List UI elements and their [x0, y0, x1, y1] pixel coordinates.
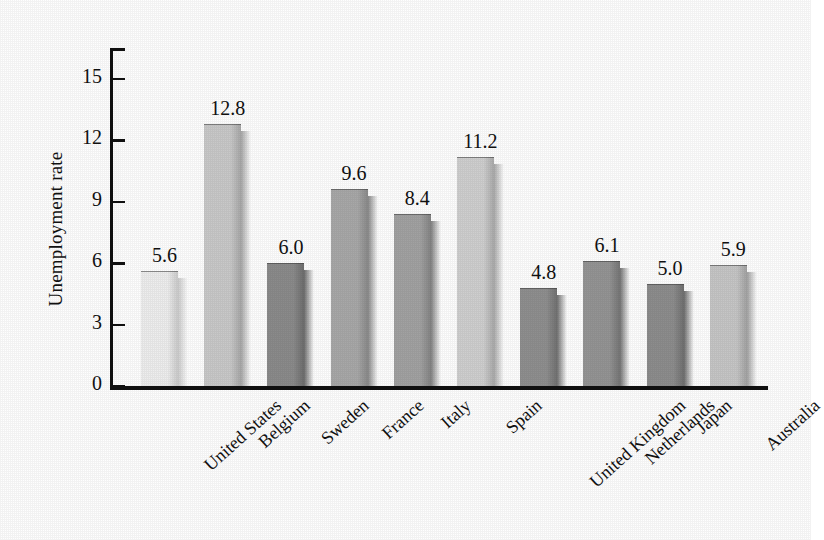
bar[interactable]: 8.4 — [394, 48, 441, 386]
y-axis-tick-label: 9 — [62, 189, 102, 209]
bar-front-face — [710, 265, 747, 386]
bar-value-label: 5.6 — [132, 245, 197, 266]
y-axis-tick-label: 12 — [62, 127, 102, 147]
bar-value-label: 11.2 — [448, 131, 513, 152]
bar-front-face — [520, 288, 557, 386]
bar[interactable]: 9.6 — [331, 48, 378, 386]
bar-side-face — [747, 272, 757, 386]
bar-value-label: 6.0 — [258, 237, 323, 258]
bar-front-face — [204, 124, 241, 386]
bar-side-face — [684, 291, 694, 386]
x-axis-tick-label: Spain — [503, 396, 546, 438]
y-axis-tick-label: 0 — [62, 373, 102, 393]
bar-value-label: 9.6 — [322, 163, 387, 184]
x-axis-tick-label: Italy — [437, 396, 474, 432]
x-axis-tick-label: France — [378, 396, 427, 443]
bar[interactable]: 6.0 — [267, 48, 314, 386]
bar[interactable]: 5.0 — [647, 48, 694, 386]
bar-front-face — [267, 263, 304, 386]
bar[interactable]: 5.9 — [710, 48, 757, 386]
y-axis-tick-label: 6 — [62, 250, 102, 270]
bar-side-face — [431, 221, 441, 386]
bar-value-label: 8.4 — [385, 188, 450, 209]
bar[interactable]: 4.8 — [520, 48, 567, 386]
bar-front-face — [457, 157, 494, 386]
bar-side-face — [178, 278, 188, 386]
bar-front-face — [583, 261, 620, 386]
bar-side-face — [494, 164, 504, 386]
bar-side-face — [241, 131, 251, 386]
bar-side-face — [557, 295, 567, 386]
bar-front-face — [647, 284, 684, 386]
y-axis-tick-label: 15 — [62, 66, 102, 86]
bar-value-label: 5.9 — [701, 239, 766, 260]
x-axis-line — [110, 386, 768, 390]
bar[interactable]: 11.2 — [457, 48, 504, 386]
bar-side-face — [620, 268, 630, 386]
bar-value-label: 12.8 — [195, 98, 260, 119]
bar-value-label: 4.8 — [511, 262, 576, 283]
plot-area: 5.612.86.09.68.411.24.86.15.05.9 — [110, 48, 768, 386]
bar-value-label: 6.1 — [574, 235, 639, 256]
y-axis-title: Unemployment rate — [45, 129, 67, 329]
x-axis-tick-label: Australia — [762, 396, 824, 454]
bar-front-face — [394, 214, 431, 386]
y-axis-tick-label: 3 — [62, 312, 102, 332]
bar[interactable]: 5.6 — [141, 48, 188, 386]
bar[interactable]: 6.1 — [583, 48, 630, 386]
bar-value-label: 5.0 — [638, 258, 703, 279]
bar[interactable]: 12.8 — [204, 48, 251, 386]
bar-front-face — [331, 189, 368, 386]
x-axis-tick-label: Sweden — [317, 396, 372, 448]
bar-side-face — [304, 270, 314, 386]
bar-front-face — [141, 271, 178, 386]
bar-side-face — [368, 196, 378, 386]
